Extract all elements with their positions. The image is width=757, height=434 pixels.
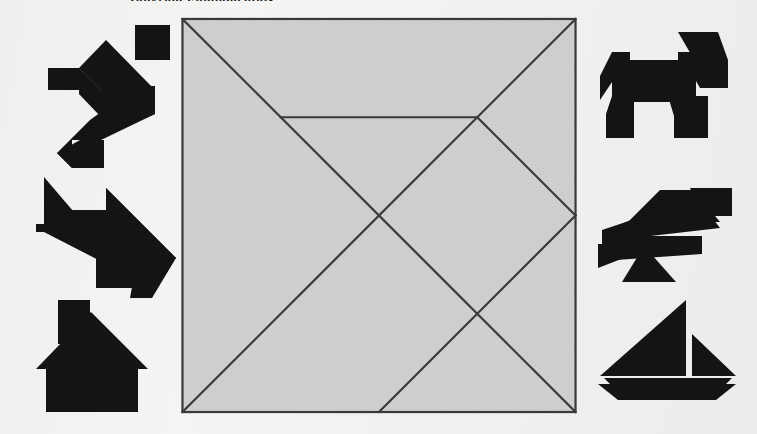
- arrow-figure[interactable]: [34, 170, 176, 288]
- boat-hull-lower: [598, 384, 736, 400]
- arrow-figure-svg: [34, 170, 176, 288]
- bird-figure-svg: [598, 188, 732, 284]
- runner-head: [135, 25, 170, 60]
- page-title: Tangram Fundamentals: [128, 0, 274, 1]
- dog-leg-front: [668, 96, 708, 138]
- dog-figure-svg: [600, 30, 728, 140]
- dog-figure[interactable]: [600, 30, 728, 140]
- tangram-square[interactable]: [180, 17, 578, 414]
- runner-figure[interactable]: [38, 22, 170, 154]
- house-figure-svg: [36, 296, 148, 412]
- tangram-square-svg: [180, 17, 578, 414]
- house-roof: [36, 312, 148, 369]
- bird-figure[interactable]: [598, 188, 732, 284]
- tangram-page: Tangram Fundamentals: [0, 0, 757, 434]
- sail-jib: [692, 334, 736, 376]
- sailboat-figure[interactable]: [598, 298, 736, 400]
- sailboat-figure-svg: [598, 298, 736, 400]
- dog-body: [612, 60, 696, 102]
- house-body: [46, 369, 138, 412]
- house-figure[interactable]: [36, 296, 148, 412]
- runner-foot: [57, 140, 104, 168]
- sail-main: [600, 300, 686, 376]
- runner-figure-svg: [38, 22, 170, 154]
- dog-leg-hind: [606, 96, 634, 138]
